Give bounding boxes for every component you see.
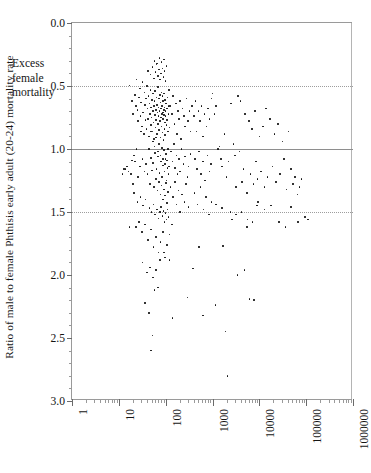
data-point xyxy=(211,98,213,100)
x-minor-tick xyxy=(208,399,209,403)
data-point xyxy=(144,92,146,94)
data-point xyxy=(226,176,228,178)
data-point xyxy=(157,151,159,153)
data-point xyxy=(198,110,200,112)
data-point xyxy=(164,221,166,223)
data-point xyxy=(158,129,160,131)
data-point xyxy=(156,97,158,99)
x-minor-tick xyxy=(343,399,344,403)
data-point xyxy=(136,79,138,81)
y-tick-1.5 xyxy=(67,212,72,213)
data-point xyxy=(290,168,292,170)
data-point xyxy=(145,163,147,165)
data-point xyxy=(176,155,178,157)
data-point xyxy=(166,65,168,67)
x-minor-tick xyxy=(158,399,159,403)
y-tick-0.5 xyxy=(67,86,72,87)
data-point xyxy=(304,216,306,218)
data-point xyxy=(154,214,156,216)
x-minor-tick xyxy=(255,399,256,403)
x-minor-tick xyxy=(304,399,305,403)
data-point xyxy=(187,120,189,122)
x-minor-tick xyxy=(273,399,274,403)
x-minor-tick xyxy=(227,399,228,403)
data-point xyxy=(161,105,163,107)
data-point xyxy=(134,94,136,96)
data-point xyxy=(138,221,140,223)
data-point xyxy=(152,277,154,279)
data-point xyxy=(140,115,142,117)
data-point xyxy=(264,209,266,211)
data-point xyxy=(208,214,210,216)
data-point xyxy=(152,141,154,143)
data-point xyxy=(161,61,163,63)
x-minor-tick xyxy=(348,399,349,403)
data-point xyxy=(132,113,134,115)
data-point xyxy=(283,158,285,160)
data-point xyxy=(135,105,137,107)
data-point xyxy=(162,231,164,233)
y-minor-tick xyxy=(69,199,72,200)
x-tick-label-100000: 100000 xyxy=(311,409,323,444)
x-minor-tick xyxy=(198,399,199,403)
data-point xyxy=(155,236,157,238)
data-point xyxy=(178,158,180,160)
data-point xyxy=(239,151,241,153)
data-point xyxy=(155,109,157,111)
y-minor-tick xyxy=(69,136,72,137)
scatter-plot-figure: Ratio of male to female Phthisis early a… xyxy=(0,0,371,473)
x-tick-100000 xyxy=(306,399,307,406)
data-point xyxy=(152,110,154,112)
data-point xyxy=(282,141,284,143)
data-point xyxy=(166,244,168,246)
data-point xyxy=(149,267,151,269)
data-point xyxy=(178,190,180,192)
x-tick-100 xyxy=(166,399,167,406)
x-minor-tick xyxy=(249,399,250,403)
data-point xyxy=(144,171,146,173)
data-point xyxy=(139,166,141,168)
gridline-y-0.5 xyxy=(72,86,353,88)
data-point xyxy=(235,214,237,216)
data-point xyxy=(202,136,204,138)
y-minor-tick xyxy=(69,36,72,37)
data-point xyxy=(154,289,156,291)
data-point xyxy=(162,132,164,134)
data-point xyxy=(166,160,168,162)
data-point xyxy=(163,139,165,141)
data-point xyxy=(221,166,223,168)
data-point xyxy=(192,268,194,270)
data-point xyxy=(203,209,205,211)
data-point xyxy=(158,143,160,145)
x-minor-tick xyxy=(351,399,352,403)
data-point xyxy=(169,127,171,129)
gridline-y-1 xyxy=(72,149,353,150)
data-point xyxy=(131,100,133,102)
data-point xyxy=(164,70,166,72)
excess-female-mortality-annotation: Excessfemalemortality xyxy=(12,57,55,101)
data-point xyxy=(182,108,184,110)
data-point xyxy=(130,173,132,175)
data-point xyxy=(252,221,254,223)
data-point xyxy=(187,176,189,178)
data-point xyxy=(156,104,158,106)
data-point xyxy=(138,97,140,99)
data-point xyxy=(153,105,155,107)
data-point xyxy=(172,196,174,198)
x-tick-label-1000: 1000 xyxy=(218,409,230,432)
x-tick-10 xyxy=(119,399,120,406)
data-point xyxy=(160,73,162,75)
data-point xyxy=(142,262,144,264)
data-point xyxy=(148,136,150,138)
data-point xyxy=(166,219,168,221)
data-point xyxy=(230,103,232,105)
data-point xyxy=(285,226,287,228)
y-tick-label-1.5: 1.5 xyxy=(51,206,66,219)
data-point xyxy=(222,245,224,247)
data-point xyxy=(155,71,157,73)
data-point xyxy=(164,122,166,124)
data-point xyxy=(153,78,155,80)
data-point xyxy=(150,229,152,231)
data-point xyxy=(167,191,169,193)
data-point xyxy=(155,137,157,139)
